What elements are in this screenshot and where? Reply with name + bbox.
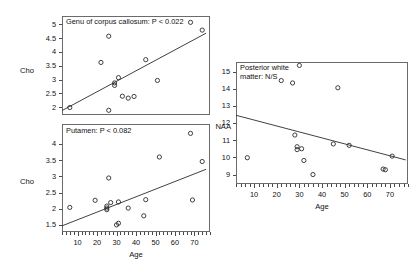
x-tick-mark-minor: [152, 232, 153, 235]
x-tick-mark-minor: [385, 184, 386, 187]
x-tick-mark-minor: [74, 232, 75, 235]
y-tick-label: 15: [202, 67, 230, 76]
x-tick-mark-minor: [272, 184, 273, 187]
data-point: [293, 133, 297, 137]
x-tick-mark-minor: [308, 184, 309, 187]
x-tick-mark-minor: [128, 232, 129, 235]
data-point: [126, 206, 130, 210]
data-point: [107, 176, 111, 180]
y-tick-label: 2.5: [28, 89, 56, 98]
x-axis-label-putamen: Age: [110, 250, 162, 259]
x-tick-mark-minor: [268, 184, 269, 187]
x-tick-mark-minor: [101, 232, 102, 235]
data-point: [144, 58, 148, 62]
x-tick-mark: [299, 184, 300, 188]
x-tick-mark-minor: [349, 184, 350, 187]
x-tick-mark-minor: [183, 232, 184, 235]
data-point: [144, 198, 148, 202]
x-tick-mark: [175, 232, 176, 236]
x-tick-mark-minor: [124, 232, 125, 235]
x-tick-mark-minor: [250, 184, 251, 187]
x-tick-mark-minor: [381, 184, 382, 187]
data-point: [157, 155, 161, 159]
x-tick-mark-minor: [148, 232, 149, 235]
x-tick-mark-minor: [105, 232, 106, 235]
x-tick-mark: [78, 232, 79, 236]
x-tick-mark-minor: [404, 184, 405, 187]
y-tick-label: 4: [28, 47, 56, 56]
x-tick-mark-minor: [120, 232, 121, 235]
x-tick-mark-minor: [236, 184, 237, 187]
y-tick-label: 4.5: [28, 34, 56, 43]
x-tick-mark-minor: [281, 184, 282, 187]
x-tick-mark-minor: [327, 184, 328, 187]
x-tick-mark-minor: [376, 184, 377, 187]
data-point: [155, 78, 159, 82]
data-point: [190, 198, 194, 202]
x-tick-mark-minor: [313, 184, 314, 187]
x-tick-mark-minor: [286, 184, 287, 187]
x-tick-mark-minor: [70, 232, 71, 235]
data-point: [336, 86, 340, 90]
x-tick-mark-minor: [62, 232, 63, 235]
x-tick-mark-minor: [290, 184, 291, 187]
x-tick-label: 70: [377, 190, 403, 199]
x-tick-mark-minor: [206, 232, 207, 235]
x-tick-mark: [390, 184, 391, 188]
x-tick-mark-minor: [354, 184, 355, 187]
x-tick-mark-minor: [85, 232, 86, 235]
x-tick-mark: [277, 184, 278, 188]
x-tick-mark-minor: [187, 232, 188, 235]
x-tick-mark-minor: [202, 232, 203, 235]
scatter-genu: [62, 16, 210, 115]
data-point: [126, 96, 130, 100]
y-tick-label: 3: [28, 172, 56, 181]
y-tick-label: 3: [28, 75, 56, 84]
data-point: [120, 94, 124, 98]
x-tick-mark-minor: [336, 184, 337, 187]
x-tick-mark-minor: [259, 184, 260, 187]
x-tick-mark-minor: [399, 184, 400, 187]
x-tick-mark-minor: [140, 232, 141, 235]
y-tick-label: 3.5: [28, 61, 56, 70]
x-tick-mark-minor: [132, 232, 133, 235]
x-tick-mark: [367, 184, 368, 188]
x-tick-mark-minor: [358, 184, 359, 187]
x-tick-mark-minor: [318, 184, 319, 187]
y-tick-label: 10: [202, 153, 230, 162]
data-point: [300, 147, 304, 151]
y-tick-label: 2.5: [28, 188, 56, 197]
figure-scatter-panels: Genu of corpus callosum: P < 0.022 Cho 2…: [0, 0, 416, 269]
x-tick-mark-minor: [171, 232, 172, 235]
y-tick-label: 9: [202, 170, 230, 179]
x-tick-mark-minor: [159, 232, 160, 235]
data-point: [311, 172, 315, 176]
x-tick-mark-minor: [241, 184, 242, 187]
y-tick-label: 13: [202, 101, 230, 110]
x-tick-mark: [117, 232, 118, 236]
x-axis-label-posterior-white-matter: Age: [296, 202, 348, 211]
data-point: [107, 108, 111, 112]
data-point: [109, 200, 113, 204]
x-tick-mark-minor: [295, 184, 296, 187]
x-tick-mark-minor: [66, 232, 67, 235]
x-tick-mark-minor: [331, 184, 332, 187]
x-tick-mark-minor: [163, 232, 164, 235]
x-tick-mark: [345, 184, 346, 188]
y-tick-label: 12: [202, 118, 230, 127]
x-tick-mark-minor: [191, 232, 192, 235]
x-tick-mark: [194, 232, 195, 236]
x-tick-mark-minor: [408, 184, 409, 187]
data-point: [93, 198, 97, 202]
x-tick-label: 70: [181, 238, 207, 247]
x-tick-mark: [97, 232, 98, 236]
x-tick-mark-minor: [82, 232, 83, 235]
x-tick-mark-minor: [167, 232, 168, 235]
y-tick-label: 11: [202, 136, 230, 145]
x-tick-mark-minor: [144, 232, 145, 235]
x-tick-mark: [156, 232, 157, 236]
x-tick-mark-minor: [198, 232, 199, 235]
data-point: [107, 34, 111, 38]
data-point: [200, 28, 204, 32]
data-point: [302, 158, 306, 162]
